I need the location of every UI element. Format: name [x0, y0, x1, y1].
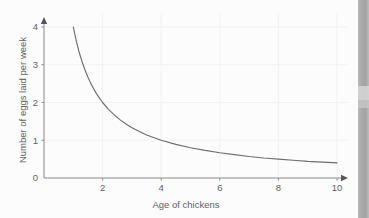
y-tick-label: 3	[33, 59, 38, 70]
x-tick-label: 2	[100, 182, 105, 193]
inverse-proportion-line-chart: 246810 01234 Age of chickens Number of e…	[0, 0, 358, 218]
y-tick-label: 2	[33, 97, 38, 108]
x-tick-label: 4	[159, 182, 164, 193]
y-tick-label: 4	[33, 21, 38, 32]
gridlines-group	[44, 14, 347, 178]
chart-plot-area: 246810 01234 Age of chickens Number of e…	[0, 0, 358, 218]
scan-strip-band	[358, 100, 369, 108]
scan-strip-band	[358, 86, 369, 100]
y-tick-label: 0	[33, 172, 38, 183]
x-tick-label: 6	[217, 182, 222, 193]
y-axis-ticks-group: 01234	[33, 21, 44, 183]
scan-edge-strip	[358, 0, 369, 218]
y-axis-title: Number of eggs laid per week	[17, 37, 28, 163]
x-tick-label: 8	[276, 182, 281, 193]
x-axis-ticks-group: 246810	[100, 178, 342, 193]
axes-group	[41, 17, 348, 181]
y-tick-label: 1	[33, 135, 38, 146]
x-axis-title: Age of chickens	[152, 199, 219, 210]
x-tick-label: 10	[332, 182, 343, 193]
chart-page: 246810 01234 Age of chickens Number of e…	[0, 0, 369, 218]
data-curve	[73, 27, 337, 163]
